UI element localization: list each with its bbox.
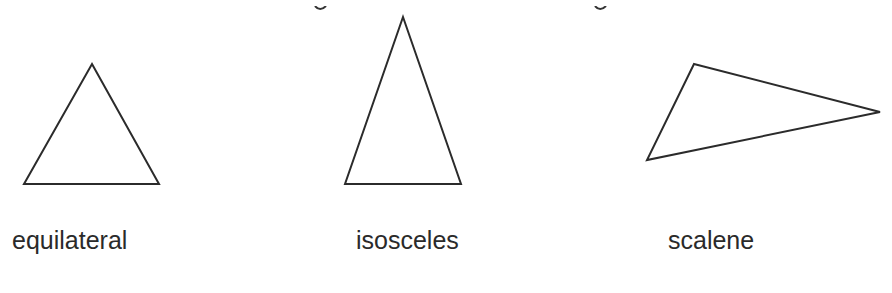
label-isosceles: isosceles xyxy=(356,224,459,256)
label-scalene: scalene xyxy=(668,224,754,256)
isosceles-triangle xyxy=(345,17,461,184)
scalene-triangle xyxy=(647,64,880,160)
equilateral-triangle xyxy=(24,64,159,184)
label-equilateral: equilateral xyxy=(12,224,127,256)
